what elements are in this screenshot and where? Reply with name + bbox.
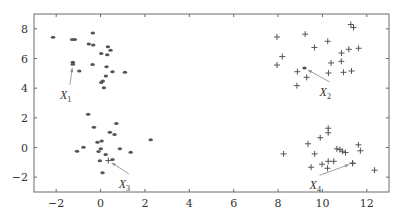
dot-marker (129, 151, 133, 154)
plus-marker (317, 135, 323, 141)
dot-marker (99, 147, 103, 150)
y-tick-label: 2 (21, 112, 28, 125)
plus-marker (349, 68, 355, 74)
dot-marker (99, 52, 103, 55)
x-tick-label: −2 (48, 197, 64, 210)
plus-marker (357, 148, 363, 154)
dot-marker (87, 42, 91, 45)
annotation-x1: X1 (59, 63, 75, 104)
y-tick-label: 8 (21, 23, 28, 36)
plus-marker (351, 24, 357, 30)
plus-marker (328, 60, 334, 66)
highlighted-point (350, 160, 356, 166)
dot-marker (105, 53, 109, 56)
y-tick-label: 0 (21, 142, 28, 155)
dot-marker (104, 75, 108, 78)
plus-marker (372, 167, 378, 173)
dot-marker (123, 71, 127, 74)
dot-marker (112, 133, 116, 136)
dot-marker (149, 138, 153, 141)
dot-marker (95, 141, 99, 144)
plus-marker (281, 151, 287, 157)
plus-marker (308, 164, 314, 170)
y-tick-label: 6 (21, 53, 28, 66)
annotation-label: X3 (118, 177, 130, 193)
plus-marker (331, 158, 337, 164)
plus-marker (319, 161, 325, 167)
annotation-label: X4 (309, 178, 321, 194)
annotation-arrow (320, 165, 349, 176)
plus-marker (334, 146, 340, 152)
plus-marker (294, 69, 300, 75)
dot-marker (99, 140, 103, 143)
plus-marker (343, 150, 349, 156)
arrowhead-icon (345, 165, 349, 168)
dot-marker (98, 159, 102, 162)
dot-marker (100, 171, 104, 174)
plus-marker (355, 142, 361, 148)
plus-marker (325, 165, 331, 171)
arrowhead-icon (70, 68, 73, 72)
y-tick-label: 4 (21, 82, 28, 95)
dot-marker (103, 153, 107, 156)
annotation-x4: X4 (309, 160, 356, 194)
plus-marker (304, 74, 310, 80)
cluster-1-series (51, 31, 127, 89)
arrowhead-icon (112, 163, 116, 166)
x-tick-label: 12 (360, 197, 374, 210)
dot-marker (75, 150, 79, 153)
plus-marker (339, 50, 345, 56)
plus-marker (341, 69, 347, 75)
plus-marker (325, 130, 331, 136)
dot-marker (108, 49, 112, 52)
arrowhead-icon (308, 70, 312, 73)
dot-marker (96, 150, 100, 153)
highlighted-point (302, 66, 306, 69)
annotation-x3: X3 (105, 158, 130, 193)
x-tick-label: 8 (275, 197, 282, 210)
plus-marker (311, 45, 317, 51)
dot-marker (73, 38, 77, 41)
plus-marker (302, 31, 308, 37)
dot-marker (102, 86, 106, 89)
dot-marker (81, 146, 85, 149)
highlighted-point (105, 158, 111, 164)
plus-marker (312, 151, 318, 157)
dot-marker (51, 36, 55, 39)
plus-marker (325, 70, 331, 76)
plus-marker (325, 38, 331, 44)
dot-marker (110, 70, 114, 73)
scatter-chart: −2024681012−202468 X1X2X3X4 (0, 0, 410, 214)
plus-marker (356, 45, 362, 51)
plus-marker (325, 158, 331, 164)
dot-marker (114, 122, 118, 125)
dot-marker (86, 113, 90, 116)
cluster-2-series (274, 22, 362, 89)
annotation-label: X1 (59, 88, 71, 104)
plus-marker (274, 34, 280, 40)
dot-marker (92, 126, 96, 129)
plus-marker (305, 141, 311, 147)
plus-marker (348, 22, 354, 28)
plus-marker (346, 46, 352, 52)
dot-marker (99, 81, 103, 84)
x-tick-label: 0 (97, 197, 104, 210)
x-tick-label: 10 (315, 197, 329, 210)
x-tick-label: 2 (141, 197, 148, 210)
dot-marker (77, 69, 81, 72)
dot-marker (108, 131, 112, 134)
dot-marker (90, 63, 94, 66)
plus-marker (279, 54, 285, 60)
annotation-x2: X2 (302, 66, 331, 100)
annotation-label: X2 (319, 85, 331, 101)
plus-marker (294, 83, 300, 89)
dot-marker (106, 45, 110, 48)
axes: −2024681012−202468 (12, 14, 389, 210)
dot-marker (91, 44, 95, 47)
plot-frame (34, 14, 389, 192)
x-tick-label: 6 (230, 197, 237, 210)
y-tick-label: −2 (12, 171, 28, 184)
dot-marker (91, 31, 95, 34)
highlighted-point (71, 63, 75, 66)
cluster-4-series (281, 125, 378, 173)
